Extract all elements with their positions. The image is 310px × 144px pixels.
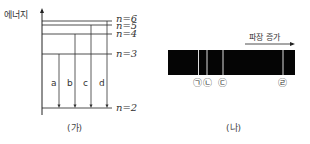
caption-na: (나) xyxy=(226,121,241,134)
spectral-line-label-4: ㉣ xyxy=(278,76,287,89)
spectrum-diagram xyxy=(168,42,295,75)
transition-label-d: d xyxy=(99,78,105,88)
wavelength-arrow-icon xyxy=(290,42,295,46)
caption-ga: (가) xyxy=(67,121,82,134)
level-label-n4: n=4 xyxy=(116,28,137,39)
spectral-line-label-2: ㉡ xyxy=(203,76,212,89)
transition-label-b: b xyxy=(67,78,73,88)
spectral-line-label-1: ㉠ xyxy=(193,76,202,89)
spectrum-band xyxy=(168,50,295,75)
energy-axis-label: 에너지 xyxy=(4,8,28,21)
energy-axis-arrow-icon xyxy=(40,8,44,13)
energy-level-diagram xyxy=(40,8,112,115)
arrowheads xyxy=(58,105,109,109)
level-label-n2: n=2 xyxy=(116,102,137,113)
spectral-line-label-3: ㉢ xyxy=(218,76,227,89)
transition-label-c: c xyxy=(83,78,88,88)
level-label-n3: n=3 xyxy=(116,48,137,59)
transition-label-a: a xyxy=(51,78,57,88)
wavelength-increase-label: 파장 증가 xyxy=(249,31,280,42)
diagram-canvas xyxy=(0,0,310,144)
